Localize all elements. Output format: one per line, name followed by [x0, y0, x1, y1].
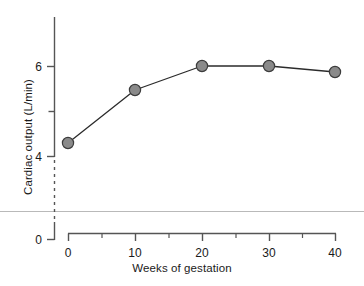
y-tick-label-6: 6: [22, 61, 42, 73]
x-tick-label-30: 30: [262, 247, 275, 259]
data-point-week-20[interactable]: [196, 60, 207, 71]
chart-figure: 6 4 0 0 10 20 30 40 Cardiac output (L/mi…: [0, 0, 364, 286]
x-tick-label-10: 10: [128, 247, 141, 259]
x-axis-title: Weeks of gestation: [0, 262, 364, 274]
x-tick-label-40: 40: [328, 247, 341, 259]
y-axis-title: Cardiac output (L/min): [22, 79, 34, 195]
data-point-week-10[interactable]: [129, 84, 140, 95]
data-point-week-30[interactable]: [263, 60, 274, 71]
data-point-week-40[interactable]: [329, 66, 340, 77]
line-chart-plot: [0, 0, 364, 286]
x-tick-label-20: 20: [195, 247, 208, 259]
data-point-week-0[interactable]: [62, 137, 73, 148]
data-line-cardiac-output: [68, 66, 335, 143]
y-tick-label-0: 0: [22, 234, 42, 246]
x-tick-label-0: 0: [65, 247, 72, 259]
